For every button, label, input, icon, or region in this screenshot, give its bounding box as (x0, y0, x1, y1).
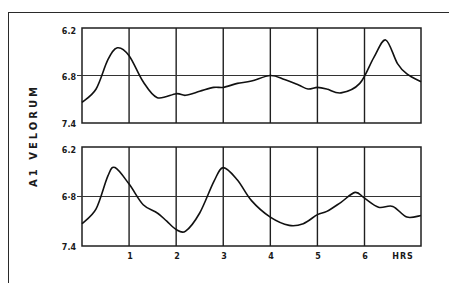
lower-light-curve (82, 167, 421, 232)
upper-y-tick-top: 6.2 (62, 27, 76, 36)
x-axis-unit-label: HRS (392, 252, 414, 261)
upper-gridlines (77, 28, 421, 123)
x-tick-6: 6 (362, 252, 368, 261)
upper-y-tick-bottom: 7.4 (62, 120, 77, 129)
upper-y-tick-mid: 6.8 (62, 73, 77, 82)
upper-panel: 6.2 6.8 7.4 (62, 27, 421, 129)
upper-light-curve (82, 40, 421, 103)
lower-y-tick-bottom: 7.4 (62, 243, 77, 252)
lower-y-tick-mid: 6·8 (62, 193, 77, 202)
x-axis-ticks: 1 2 3 4 5 6 HRS (127, 252, 414, 261)
x-tick-2: 2 (174, 252, 180, 261)
x-tick-1: 1 (127, 252, 133, 261)
x-tick-3: 3 (221, 252, 227, 261)
x-tick-5: 5 (315, 252, 321, 261)
lower-panel: 6.2 6·8 7.4 (62, 146, 421, 252)
x-tick-4: 4 (268, 252, 274, 261)
lower-y-tick-top: 6.2 (62, 146, 76, 155)
